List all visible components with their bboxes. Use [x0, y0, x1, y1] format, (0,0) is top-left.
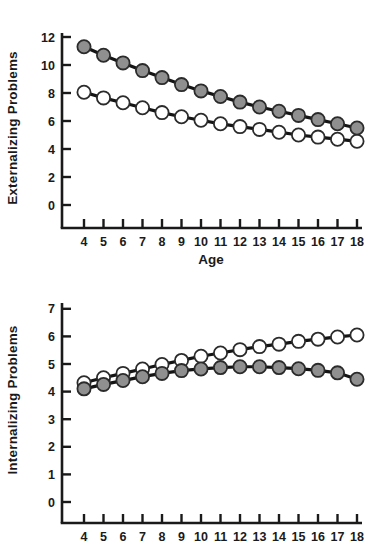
internalizing-x-tick-label: 8 [159, 530, 166, 544]
externalizing-x-tick-label: 11 [214, 235, 227, 249]
externalizing-y-tick-label: 4 [48, 143, 55, 157]
externalizing-x-tick-label: 5 [100, 235, 107, 249]
open-circle-marker [214, 346, 227, 359]
internalizing-chart: 01234567456789101112131415161718 [48, 302, 364, 544]
open-circle-marker [77, 86, 90, 99]
externalizing-x-tick-label: 6 [120, 235, 127, 249]
figure-canvas: 0246810124567891011121314151617180123456… [0, 0, 381, 544]
externalizing-x-tick-label: 12 [233, 235, 247, 249]
externalizing-x-tick-label: 10 [194, 235, 208, 249]
externalizing-x-tick-label: 18 [350, 235, 364, 249]
externalizing-x-tick-label: 4 [81, 235, 88, 249]
filled-circle-marker [214, 90, 227, 103]
internalizing-x-tick-label: 15 [292, 530, 306, 544]
internalizing-x-tick-label: 13 [253, 530, 267, 544]
filled-circle-marker [136, 64, 149, 77]
open-circle-marker [253, 340, 266, 353]
internalizing-x-tick-label: 14 [272, 530, 286, 544]
externalizing-y-tick-label: 12 [41, 31, 55, 45]
open-circle-marker [116, 96, 129, 109]
filled-circle-marker [77, 382, 90, 395]
filled-circle-marker [311, 113, 324, 126]
internalizing-y-tick-label: 2 [48, 440, 55, 454]
filled-circle-marker [253, 100, 266, 113]
filled-circle-marker [292, 362, 305, 375]
externalizing-y-tick-label: 6 [48, 115, 55, 129]
externalizing-x-tick-label: 13 [253, 235, 267, 249]
externalizing-y-tick-label: 10 [41, 59, 55, 73]
filled-circle-marker [136, 370, 149, 383]
filled-circle-marker [292, 109, 305, 122]
open-circle-marker [194, 114, 207, 127]
externalizing-x-tick-label: 17 [331, 235, 345, 249]
internalizing-x-tick-label: 6 [120, 530, 127, 544]
filled-circle-marker [350, 373, 363, 386]
open-circle-marker [331, 330, 344, 343]
open-circle-marker [311, 131, 324, 144]
internalizing-x-tick-label: 10 [194, 530, 208, 544]
internalizing-x-tick-label: 16 [311, 530, 325, 544]
internalizing-y-tick-label: 4 [48, 385, 55, 399]
filled-circle-marker [194, 362, 207, 375]
filled-circle-marker [116, 56, 129, 69]
filled-circle-marker [233, 360, 246, 373]
open-circle-marker [214, 117, 227, 130]
filled-circle-marker [155, 367, 168, 380]
externalizing-x-tick-label: 14 [272, 235, 286, 249]
externalizing-x-tick-label: 8 [159, 235, 166, 249]
filled-circle-marker [214, 361, 227, 374]
filled-circle-marker [116, 374, 129, 387]
filled-circle-marker [253, 360, 266, 373]
internalizing-y-tick-label: 5 [48, 358, 55, 372]
open-circle-marker [292, 335, 305, 348]
filled-circle-marker [155, 71, 168, 84]
open-circle-marker [350, 328, 363, 341]
externalizing-x-ticks: 456789101112131415161718 [81, 219, 364, 249]
filled-circle-marker [331, 366, 344, 379]
internalizing-y-tick-label: 0 [48, 496, 55, 510]
filled-circle-marker [97, 378, 110, 391]
open-circle-marker [350, 135, 363, 148]
externalizing-y-tick-label: 8 [48, 87, 55, 101]
filled-circle-marker [194, 84, 207, 97]
externalizing-x-tick-label: 7 [139, 235, 146, 249]
open-circle-marker [97, 91, 110, 104]
externalizing-y-tick-label: 2 [48, 171, 55, 185]
open-circle-marker [253, 123, 266, 136]
filled-circle-marker [272, 105, 285, 118]
externalizing-y-tick-label: 0 [48, 199, 55, 213]
internalizing-x-tick-label: 5 [100, 530, 107, 544]
open-circle-marker [272, 338, 285, 351]
open-circle-marker [311, 333, 324, 346]
internalizing-x-tick-label: 18 [350, 530, 364, 544]
externalizing-chart: 024681012456789101112131415161718 [41, 31, 364, 250]
open-circle-marker [233, 343, 246, 356]
internalizing-y-tick-label: 7 [48, 302, 55, 316]
filled-circle-marker [175, 78, 188, 91]
filled-circle-marker [311, 364, 324, 377]
internalizing-x-ticks: 456789101112131415161718 [81, 514, 364, 544]
filled-circle-marker [77, 40, 90, 53]
internalizing-y-tick-label: 6 [48, 330, 55, 344]
internalizing-x-tick-label: 11 [214, 530, 227, 544]
internalizing-y-tick-label: 1 [48, 468, 55, 482]
filled-circle-marker [233, 96, 246, 109]
filled-circle-marker [331, 117, 344, 130]
internalizing-filled-circle-series [77, 360, 363, 395]
externalizing-x-tick-label: 15 [292, 235, 306, 249]
open-circle-marker [136, 101, 149, 114]
internalizing-x-tick-label: 12 [233, 530, 247, 544]
filled-circle-marker [350, 121, 363, 134]
open-circle-marker [194, 350, 207, 363]
externalizing-x-tick-label: 9 [178, 235, 185, 249]
internalizing-x-tick-label: 7 [139, 530, 146, 544]
open-circle-marker [155, 106, 168, 119]
line-charts-plot: 0246810124567891011121314151617180123456… [0, 0, 381, 544]
externalizing-x-tick-label: 16 [311, 235, 325, 249]
open-circle-marker [233, 120, 246, 133]
open-circle-marker [272, 126, 285, 139]
internalizing-y-tick-label: 3 [48, 413, 55, 427]
internalizing-x-tick-label: 9 [178, 530, 185, 544]
open-circle-marker [292, 128, 305, 141]
internalizing-x-tick-label: 4 [81, 530, 88, 544]
